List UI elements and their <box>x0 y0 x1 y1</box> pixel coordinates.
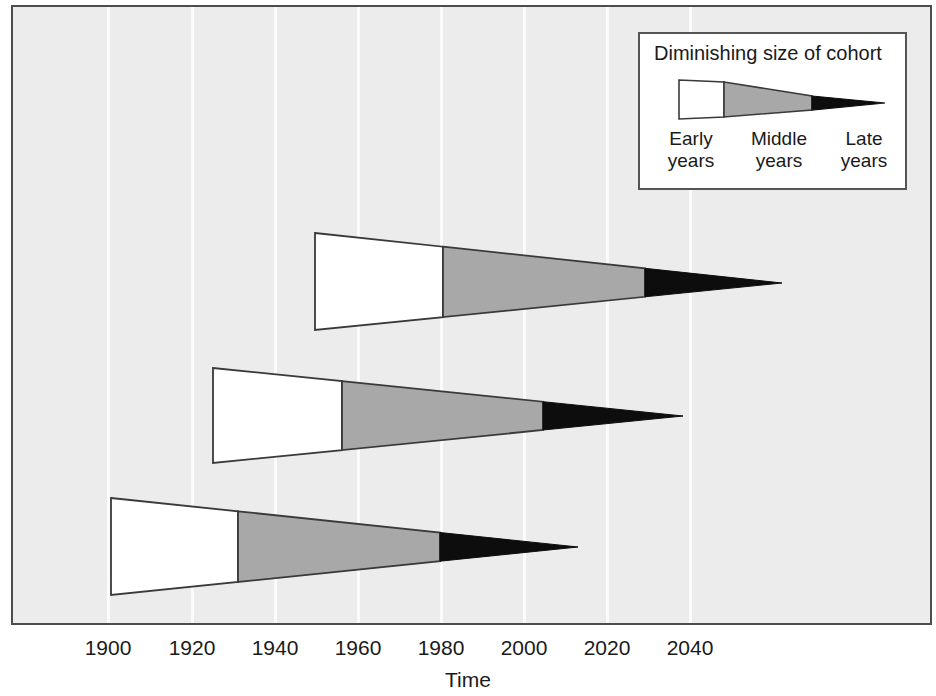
gridline-1940 <box>274 7 277 623</box>
x-tick-label-2040: 2040 <box>655 636 725 660</box>
gridline-1960 <box>357 7 360 623</box>
gridline-1920 <box>191 7 194 623</box>
x-axis-tick-labels: 19001920194019601980200020202040 <box>0 636 936 666</box>
legend-label-middle-line2: years <box>732 150 826 172</box>
legend-label-early-line2: years <box>648 150 734 172</box>
gridline-1980 <box>440 7 443 623</box>
legend-label-early-line1: Early <box>648 128 734 150</box>
x-tick-label-1920: 1920 <box>157 636 227 660</box>
legend-label-early: Early years <box>648 128 734 172</box>
gridline-2020 <box>606 7 609 623</box>
chart-figure: Diminishing size of cohort Early years M… <box>0 0 936 696</box>
legend-swatch-middle <box>724 82 812 117</box>
legend: Diminishing size of cohort Early years M… <box>638 32 907 190</box>
gridline-1900 <box>107 7 110 623</box>
legend-swatch-late <box>812 96 885 110</box>
x-tick-label-1980: 1980 <box>406 636 476 660</box>
legend-swatch-early <box>679 80 724 119</box>
x-tick-label-1960: 1960 <box>323 636 393 660</box>
legend-label-late-line1: Late <box>826 128 902 150</box>
legend-label-middle: Middle years <box>732 128 826 172</box>
legend-label-middle-line1: Middle <box>732 128 826 150</box>
x-tick-label-1940: 1940 <box>240 636 310 660</box>
legend-label-late: Late years <box>826 128 902 172</box>
x-tick-label-2020: 2020 <box>572 636 642 660</box>
x-tick-label-1900: 1900 <box>73 636 143 660</box>
x-tick-label-2000: 2000 <box>489 636 559 660</box>
legend-label-late-line2: years <box>826 150 902 172</box>
x-axis-title: Time <box>0 668 936 692</box>
gridline-2000 <box>523 7 526 623</box>
